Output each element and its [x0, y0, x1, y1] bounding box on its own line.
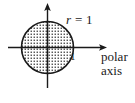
- polar-axis-label-line1: polar: [101, 50, 128, 64]
- radius-label-equals: =: [71, 12, 86, 27]
- polar-axis-label-line2: axis: [101, 64, 128, 78]
- radius-label: r = 1: [66, 13, 93, 26]
- polar-axis-label: polar axis: [101, 50, 128, 78]
- radius-label-value: 1: [86, 12, 93, 27]
- unit-tick-label: 1: [70, 51, 76, 62]
- polar-circle-figure: r = 1 1 polar axis: [0, 0, 135, 103]
